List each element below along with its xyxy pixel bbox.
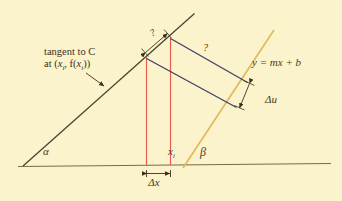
alpha-angle-label: α xyxy=(43,145,49,158)
tangent-annotation-line2: at (xi, f(xi)) xyxy=(44,58,95,72)
line-equation-label: y = mx + b xyxy=(252,56,301,69)
diagram-svg xyxy=(0,0,342,201)
delta-u-measure-line xyxy=(240,84,250,109)
secant-line-upper xyxy=(171,39,248,83)
figure-canvas: tangent to C at (xi, f(xi)) y = mx + b Δ… xyxy=(0,0,342,201)
question-mark-secant-label: ? xyxy=(203,42,208,54)
line-y-equals-mx-plus-b xyxy=(183,30,274,168)
x-i-label: xi xyxy=(168,145,175,160)
delta-u-tick-top xyxy=(245,81,255,86)
delta-u-label: Δu xyxy=(265,93,277,106)
question-measure-tick-lower xyxy=(142,49,149,57)
delta-x-label: Δx xyxy=(148,176,159,189)
tangent-line xyxy=(23,14,195,167)
x-axis xyxy=(18,164,331,167)
beta-angle-label: β xyxy=(200,145,206,159)
secant-line-lower xyxy=(147,59,237,108)
question-measure-tick-upper xyxy=(164,30,171,38)
tangent-label-leader-arrow xyxy=(86,73,104,86)
tangent-annotation-line1: tangent to C xyxy=(44,46,95,57)
tangent-annotation: tangent to C at (xi, f(xi)) xyxy=(44,46,95,73)
